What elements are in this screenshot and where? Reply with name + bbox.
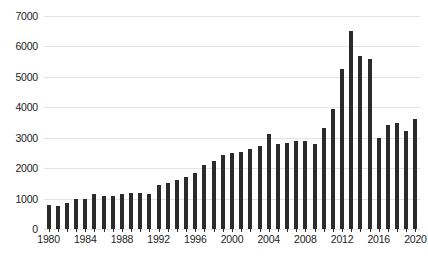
bar-2019 [404, 131, 408, 229]
y-tick-label-2000: 2000 [15, 162, 38, 174]
x-tick-1983 [76, 229, 77, 232]
y-tick-label-5000: 5000 [15, 71, 38, 83]
x-tick-1998 [214, 229, 215, 232]
bar-2010 [322, 128, 326, 229]
x-tick-2008 [305, 229, 306, 232]
x-tick-1980 [49, 229, 50, 232]
bar-1999 [221, 155, 225, 229]
x-tick-1984 [85, 229, 86, 232]
bar-2000 [230, 153, 234, 229]
y-tick-label-4000: 4000 [15, 101, 38, 113]
x-tick-label-2008: 2008 [294, 233, 317, 245]
bar-2007 [294, 141, 298, 229]
bar-series [44, 16, 420, 229]
bar-1983 [74, 199, 78, 229]
x-tick-1986 [104, 229, 105, 232]
x-tick-label-1980: 1980 [37, 233, 60, 245]
y-tick-label-6000: 6000 [15, 40, 38, 52]
bar-2017 [386, 125, 390, 229]
bar-2008 [303, 141, 307, 229]
bar-2014 [358, 56, 362, 229]
x-tick-1981 [58, 229, 59, 232]
bar-1996 [193, 173, 197, 229]
y-tick-label-1000: 1000 [15, 193, 38, 205]
x-tick-2014 [360, 229, 361, 232]
bar-1992 [157, 185, 161, 229]
bar-2015 [368, 59, 372, 229]
x-tick-1995 [186, 229, 187, 232]
x-tick-label-2016: 2016 [367, 233, 390, 245]
plot-area [44, 16, 420, 229]
bar-1980 [47, 205, 51, 229]
bar-2005 [276, 144, 280, 229]
x-tick-1987 [113, 229, 114, 232]
x-tick-2000 [232, 229, 233, 232]
bar-1981 [56, 206, 60, 229]
x-tick-2001 [241, 229, 242, 232]
x-tick-2020 [415, 229, 416, 232]
x-tick-2004 [269, 229, 270, 232]
x-tick-1989 [131, 229, 132, 232]
x-tick-1994 [177, 229, 178, 232]
bar-2006 [285, 143, 289, 229]
x-tick-1991 [149, 229, 150, 232]
x-tick-2016 [379, 229, 380, 232]
x-tick-2015 [370, 229, 371, 232]
bar-chart: 01000200030004000500060007000 1980198419… [0, 0, 428, 260]
x-tick-label-2004: 2004 [257, 233, 280, 245]
x-tick-1999 [223, 229, 224, 232]
x-tick-2011 [333, 229, 334, 232]
x-tick-2013 [351, 229, 352, 232]
x-tick-label-1988: 1988 [111, 233, 134, 245]
x-tick-1982 [67, 229, 68, 232]
x-tick-2018 [397, 229, 398, 232]
bar-2013 [349, 31, 353, 229]
x-tick-1988 [122, 229, 123, 232]
bar-1989 [129, 193, 133, 229]
x-tick-label-2012: 2012 [331, 233, 354, 245]
bar-2001 [239, 152, 243, 229]
x-tick-2009 [315, 229, 316, 232]
x-tick-2019 [406, 229, 407, 232]
bar-2003 [258, 146, 262, 229]
x-tick-1996 [195, 229, 196, 232]
x-tick-1985 [94, 229, 95, 232]
bar-2002 [248, 149, 252, 229]
y-tick-label-3000: 3000 [15, 132, 38, 144]
x-tick-2002 [250, 229, 251, 232]
bar-1997 [202, 165, 206, 229]
bar-1982 [65, 203, 69, 229]
x-tick-2005 [278, 229, 279, 232]
bar-1984 [83, 199, 87, 229]
x-tick-1997 [204, 229, 205, 232]
bar-1998 [212, 161, 216, 229]
x-tick-1992 [159, 229, 160, 232]
bar-2009 [313, 144, 317, 229]
bar-1991 [147, 194, 151, 229]
x-tick-label-1984: 1984 [74, 233, 97, 245]
x-tick-label-2020: 2020 [404, 233, 427, 245]
x-axis-labels: 1980198419881992199620002004200820122016… [44, 233, 420, 253]
bar-2016 [377, 138, 381, 229]
x-tick-2012 [342, 229, 343, 232]
bar-2012 [340, 69, 344, 229]
bar-1986 [102, 196, 106, 229]
bar-2020 [413, 119, 417, 229]
y-axis-labels: 01000200030004000500060007000 [0, 0, 44, 260]
y-tick-label-7000: 7000 [15, 10, 38, 22]
bar-1987 [111, 196, 115, 229]
x-tick-label-1992: 1992 [147, 233, 170, 245]
x-tick-2010 [324, 229, 325, 232]
x-tick-2006 [287, 229, 288, 232]
x-tick-label-2000: 2000 [221, 233, 244, 245]
bar-1985 [92, 194, 96, 229]
x-tick-2017 [388, 229, 389, 232]
bar-1990 [138, 193, 142, 229]
bar-1993 [166, 183, 170, 229]
x-tick-1993 [168, 229, 169, 232]
bar-1995 [184, 177, 188, 229]
x-tick-2007 [296, 229, 297, 232]
x-tick-1990 [140, 229, 141, 232]
bar-1988 [120, 194, 124, 229]
bar-2004 [267, 134, 271, 229]
